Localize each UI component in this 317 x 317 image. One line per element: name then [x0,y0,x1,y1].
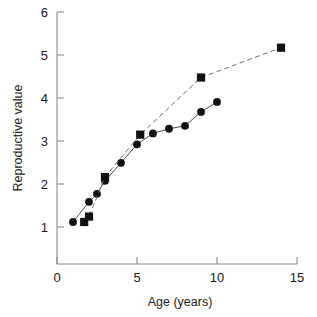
x-tick-label-5: 5 [133,270,140,285]
x-tick-label-15: 15 [290,270,304,285]
series-line-square-series [84,48,281,222]
y-tick-label-6: 6 [41,5,48,20]
y-tick-label-5: 5 [41,48,48,63]
data-point-circle [181,122,189,130]
x-tick-label-0: 0 [53,270,60,285]
y-tick-label-4: 4 [41,91,48,106]
chart-plot-area: 6 5 4 3 2 1 0 5 10 15 Age (years) Reprod… [0,0,317,317]
x-tick-label-10: 10 [210,270,224,285]
data-point-circle [197,108,205,116]
x-axis-title: Age (years) [148,295,213,309]
data-point-square [85,212,93,220]
data-point-circle [117,159,125,167]
data-point-square [136,131,144,139]
y-axis-title: Reproductive value [11,84,25,191]
chart-figure: 6 5 4 3 2 1 0 5 10 15 Age (years) Reprod… [0,0,317,317]
series-circle-series [69,98,221,226]
y-tick-label-1: 1 [41,220,48,235]
series-layer [69,44,285,227]
y-tick-label-2: 2 [41,177,48,192]
data-point-circle [85,198,93,206]
data-point-circle [133,140,141,148]
y-tick-label-3: 3 [41,134,48,149]
data-point-square [277,44,285,52]
data-point-square [197,73,205,81]
data-point-circle [149,129,157,137]
x-axis-ticks [57,257,297,264]
y-axis-ticks [57,12,64,227]
series-square-series [80,44,285,227]
data-point-square [101,173,109,181]
data-point-circle [213,98,221,106]
data-point-circle [165,125,173,133]
data-point-circle [69,218,77,226]
